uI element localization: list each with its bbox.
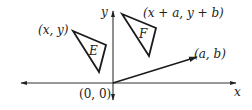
vector-ab (113, 57, 197, 83)
x-axis-label: x (234, 85, 241, 99)
vertex-label-e: (x, y) (38, 23, 69, 37)
vertex-label-f: (x + a, y + b) (143, 6, 224, 20)
vector-label: (a, b) (194, 47, 226, 61)
y-axis-label: y (100, 5, 108, 19)
translation-diagram: y x (0, 0) (x, y) E (x + a, y + b) F (a,… (0, 0, 252, 110)
origin-label: (0, 0) (79, 87, 111, 101)
triangle-label-e: E (88, 44, 98, 58)
triangle-label-f: F (138, 27, 148, 41)
